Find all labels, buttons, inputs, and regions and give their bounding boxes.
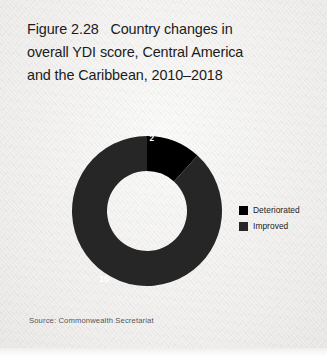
source-note: Source: Commonwealth Secretariat (29, 316, 154, 325)
legend-item-improved[interactable]: Improved (239, 219, 300, 233)
legend-item-deteriorated[interactable]: Deteriorated (239, 203, 300, 217)
figure-title-line-3: and the Caribbean, 2010–2018 (27, 64, 307, 87)
figure-title-line-2: overall YDI score, Central America (27, 41, 307, 64)
donut-chart: 2 15 Deteriorated Improved (0, 104, 327, 309)
figure-title-line-1: Figure 2.28 Country changes in (27, 18, 307, 41)
legend-label-deteriorated: Deteriorated (253, 205, 300, 215)
page-bottom-edge (0, 348, 327, 357)
figure-container: Figure 2.28 Country changes in overall Y… (0, 0, 327, 357)
legend-swatch-icon-deteriorated (239, 206, 248, 215)
donut-slice-improved[interactable] (72, 136, 222, 286)
chart-legend: Deteriorated Improved (239, 203, 300, 235)
legend-label-improved: Improved (253, 221, 288, 231)
donut-slice-value-improved: 15 (99, 275, 109, 284)
figure-title: Figure 2.28 Country changes in overall Y… (27, 18, 307, 87)
legend-swatch-icon-improved (239, 222, 248, 231)
donut-slices (72, 136, 222, 286)
donut-slice-value-deteriorated: 2 (150, 134, 155, 143)
